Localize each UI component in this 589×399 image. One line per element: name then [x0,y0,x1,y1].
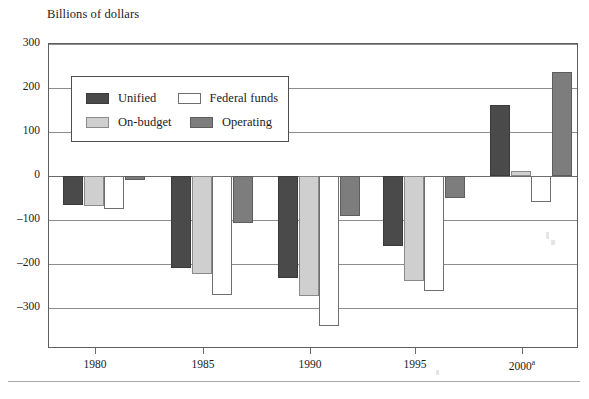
x-tick-mark-1985 [203,348,204,354]
chart-legend: Unified Federal funds On-budget Operatin… [71,76,289,142]
gridline-300 [49,44,577,45]
bar-unified-1985 [171,176,191,268]
x-tick-label-1995: 1995 [380,358,450,370]
y-tick-label--100: –100 [0,213,40,225]
bar-onbudget-1995 [404,176,424,281]
x-tick-label-1990: 1990 [275,358,345,370]
bar-onbudget-2000 [511,171,531,176]
legend-swatch-unified [86,93,109,104]
bar-federalfunds-1995 [424,176,444,291]
legend-swatch-on-budget [86,117,109,128]
bar-onbudget-1980 [84,176,104,206]
y-tick-label-300: 300 [0,37,40,49]
x-tick-mark-1980 [95,348,96,354]
x-tick-label-2000: 2000a [487,358,557,372]
bar-operating-1985 [233,176,253,223]
bar-federalfunds-2000 [531,176,551,202]
legend-row: On-budget Operating [86,110,278,134]
y-tick-label-0: 0 [0,169,40,181]
legend-item-unified: Unified [86,91,178,106]
legend-label-operating: Operating [222,115,272,130]
y-tick-label--300: –300 [0,301,40,313]
bar-unified-1995 [383,176,403,246]
bar-operating-1990 [340,176,360,216]
bar-federalfunds-1990 [319,176,339,326]
y-axis-title: Billions of dollars [47,7,139,22]
legend-label-on-budget: On-budget [118,115,171,130]
bar-unified-2000 [490,105,510,176]
legend-item-on-budget: On-budget [86,115,190,130]
legend-label-federal-funds: Federal funds [210,91,278,106]
x-tick-mark-1990 [310,348,311,354]
legend-item-operating: Operating [190,115,272,130]
bar-operating-1980 [125,176,145,180]
bar-federalfunds-1980 [104,176,124,209]
chart-figure: Billions of dollars 3002001000–100–200–3… [0,0,589,399]
legend-swatch-operating [190,117,213,128]
x-tick-mark-1995 [415,348,416,354]
y-tick-label-200: 200 [0,81,40,93]
y-tick-label-100: 100 [0,125,40,137]
bar-onbudget-1985 [192,176,212,274]
legend-label-unified: Unified [118,91,156,106]
bar-operating-2000 [552,72,572,176]
legend-row: Unified Federal funds [86,86,278,110]
x-tick-mark-2000 [522,348,523,354]
bar-federalfunds-1985 [212,176,232,295]
bar-unified-1980 [63,176,83,205]
x-tick-label-1980: 1980 [60,358,130,370]
gridline--300 [49,308,577,309]
y-tick-label--200: –200 [0,257,40,269]
legend-item-federal-funds: Federal funds [178,91,278,106]
bar-operating-1995 [445,176,465,198]
bar-onbudget-1990 [299,176,319,296]
x-tick-label-1985: 1985 [168,358,238,370]
legend-swatch-federal-funds [178,93,201,104]
page-rule [8,381,580,382]
bar-unified-1990 [278,176,298,278]
